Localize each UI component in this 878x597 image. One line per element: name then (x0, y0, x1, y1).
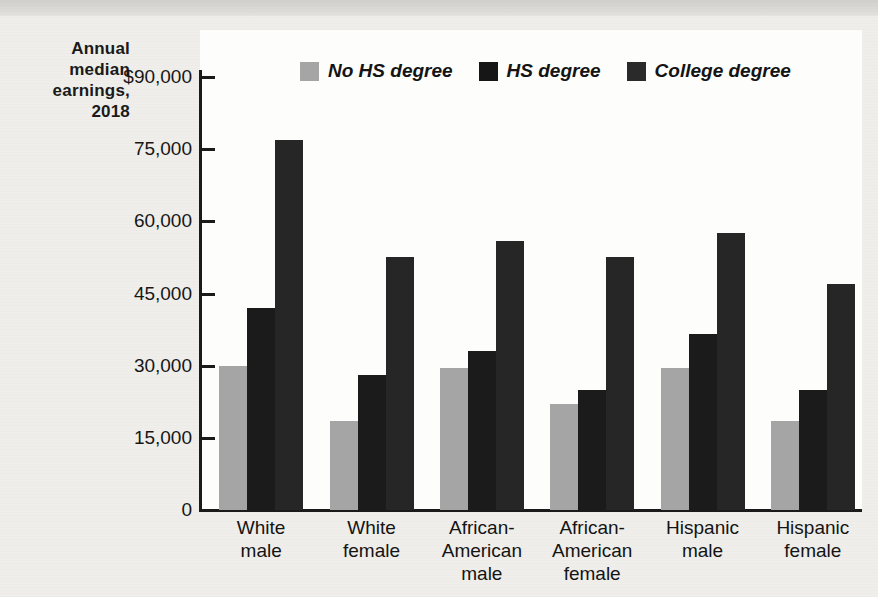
bar-group-container (200, 30, 862, 512)
x-axis-tick-label-line: Hispanic (754, 516, 872, 539)
bar-hs (358, 375, 386, 510)
x-axis-tick-label: Whitemale (202, 516, 320, 562)
x-axis-tick-label: Hispanicmale (644, 516, 762, 562)
x-axis-tick-label-line: African- (423, 516, 541, 539)
bar-hs (689, 334, 717, 510)
bar-nohs (440, 368, 468, 510)
x-axis-tick-label-line: American (423, 539, 541, 562)
x-axis-tick-label-line: female (754, 539, 872, 562)
x-axis-tick-label-line: female (313, 539, 431, 562)
x-axis-tick-label-line: American (533, 539, 651, 562)
y-axis-tick-label: 15,000 (72, 427, 192, 449)
bar-hs (578, 390, 606, 510)
y-axis-tick-label: 45,000 (72, 283, 192, 305)
bar-hs (799, 390, 827, 510)
bar-college (496, 241, 524, 510)
y-axis-tick-label: 75,000 (72, 138, 192, 160)
x-axis-tick-label-line: White (202, 516, 320, 539)
x-axis-tick-label-line: African- (533, 516, 651, 539)
bar-nohs (771, 421, 799, 510)
y-axis-tick-label: $90,000 (72, 66, 192, 88)
bar-college (827, 284, 855, 510)
x-axis-tick-label: African-Americanmale (423, 516, 541, 585)
x-axis-tick-label-line: male (644, 539, 762, 562)
bar-hs (247, 308, 275, 510)
bar-nohs (219, 366, 247, 510)
x-axis-tick-label-line: White (313, 516, 431, 539)
bar-college (717, 233, 745, 510)
bar-hs (468, 351, 496, 510)
x-axis-tick-label: African-Americanfemale (533, 516, 651, 585)
y-axis-tick-label: 60,000 (72, 210, 192, 232)
y-axis-tick-label: 0 (72, 499, 192, 521)
x-axis-tick-label-line: male (202, 539, 320, 562)
x-axis-tick-label-line: male (423, 562, 541, 585)
bar-college (606, 257, 634, 510)
x-axis-tick-label-line: Hispanic (644, 516, 762, 539)
x-axis-tick-labels: WhitemaleWhitefemaleAfrican-Americanmale… (200, 516, 862, 596)
bar-nohs (330, 421, 358, 510)
bar-nohs (550, 404, 578, 510)
x-axis-tick-label: Whitefemale (313, 516, 431, 562)
bar-college (275, 140, 303, 510)
x-axis-tick-label-line: female (533, 562, 651, 585)
y-axis-tick-label: 30,000 (72, 355, 192, 377)
bar-college (386, 257, 414, 510)
y-axis-tick-labels: 015,00030,00045,00060,00075,000$90,000 (68, 0, 192, 597)
bar-nohs (661, 368, 689, 510)
x-axis-tick-label: Hispanicfemale (754, 516, 872, 562)
